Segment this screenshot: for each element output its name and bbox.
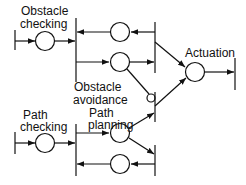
arc-path-transition-to-actuation — [155, 78, 186, 106]
place-path-checking — [36, 134, 55, 153]
place-obstacle-checking — [36, 32, 55, 51]
label-obstacle-checking-line1: Obstacle — [21, 4, 69, 18]
arc-inhibitor-obstacle-avoidance — [127, 69, 149, 94]
label-obstacle-avoidance-line2: avoidance — [73, 93, 128, 107]
place-path-return — [111, 155, 130, 174]
place-obstacle-avoidance — [111, 53, 130, 72]
place-obstacle-return — [111, 23, 130, 42]
arc-join-obstacle-to-actuation — [155, 42, 185, 67]
petri-net-diagram: Obstacle checking Obstacle avoidance Pat… — [0, 0, 246, 185]
label-obstacle-avoidance-line1: Obstacle — [74, 80, 122, 94]
label-path-planning-line2: planning — [88, 118, 133, 132]
place-actuation — [186, 63, 205, 82]
arc-path-planning-to-join — [129, 138, 154, 154]
label-actuation: Actuation — [185, 46, 235, 60]
inhibitor-circle — [147, 94, 155, 102]
label-path-checking-line2: checking — [20, 120, 67, 134]
label-obstacle-checking-line2: checking — [20, 17, 67, 31]
